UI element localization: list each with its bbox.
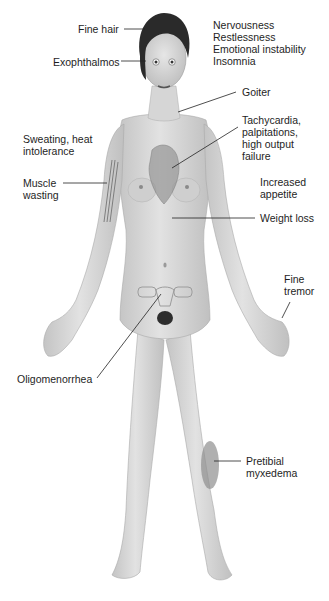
- head: [139, 13, 189, 88]
- label-fine-hair: Fine hair: [78, 23, 119, 35]
- body-illustration: [0, 0, 329, 601]
- pretibial-lesion: [201, 441, 219, 489]
- label-fine-tremor: Fine tremor: [284, 273, 314, 297]
- label-cardiac: Tachycardia, palpitations, high output f…: [242, 114, 301, 162]
- label-neuro-symptoms: Nervousness Restlessness Emotional insta…: [213, 19, 306, 67]
- label-increased-appetite: Increased appetite: [260, 176, 306, 200]
- legs: [112, 330, 232, 580]
- label-goiter: Goiter: [242, 86, 271, 98]
- label-pretibial-myxedema: Pretibial myxedema: [246, 455, 297, 479]
- label-weight-loss: Weight loss: [260, 212, 314, 224]
- label-oligomenorrhea: Oligomenorrhea: [17, 373, 92, 385]
- label-muscle-wasting: Muscle wasting: [23, 177, 59, 201]
- diagram-stage: Fine hair Exophthalmos Nervousness Restl…: [0, 0, 329, 601]
- torso: [118, 114, 210, 339]
- label-exophthalmos: Exophthalmos: [53, 56, 120, 68]
- label-sweating: Sweating, heat intolerance: [23, 133, 92, 157]
